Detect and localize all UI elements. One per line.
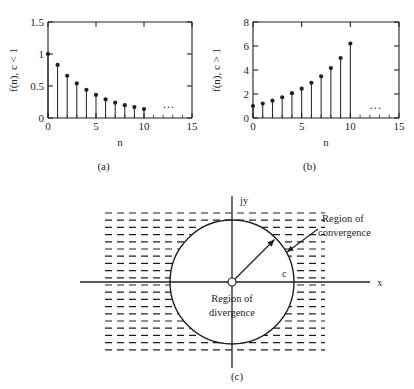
complex-plane-diagram: jy x c Region of divergence Region of co… bbox=[60, 182, 414, 372]
origin-marker bbox=[228, 278, 236, 286]
radius-label: c bbox=[282, 268, 287, 279]
real-axis-label: x bbox=[377, 277, 383, 288]
svg-text:8: 8 bbox=[244, 16, 250, 28]
convergence-label-line2: convergence bbox=[318, 227, 371, 238]
panel-caption-c: (c) bbox=[60, 370, 414, 382]
axis-ticks-a: 05101500.511.5 bbox=[30, 16, 198, 132]
stem-plot-a: 05101500.511.5 ... n f(n), c < 1 bbox=[0, 0, 207, 160]
stem-series-a bbox=[46, 52, 146, 118]
y-axis-label-a: f(n), c < 1 bbox=[7, 48, 20, 92]
svg-text:10: 10 bbox=[345, 120, 357, 132]
svg-text:15: 15 bbox=[394, 120, 406, 132]
ellipsis-b: ... bbox=[370, 98, 382, 112]
svg-text:1.5: 1.5 bbox=[30, 16, 44, 28]
axis-ticks-b: 05101502468 bbox=[244, 16, 406, 132]
svg-text:5: 5 bbox=[299, 120, 305, 132]
divergence-label-line2: divergence bbox=[209, 307, 255, 318]
panel-caption-a: (a) bbox=[0, 160, 207, 172]
panel-c: jy x c Region of divergence Region of co… bbox=[60, 182, 414, 389]
svg-text:5: 5 bbox=[93, 120, 99, 132]
panel-b: 05101502468 ... n f(n), c > 1 (b) bbox=[205, 0, 414, 180]
stem-plot-b: 05101502468 ... n f(n), c > 1 bbox=[205, 0, 414, 160]
x-axis-label-b: n bbox=[323, 136, 329, 148]
svg-text:10: 10 bbox=[139, 120, 151, 132]
ellipsis-a: ... bbox=[163, 97, 175, 111]
svg-text:2: 2 bbox=[244, 88, 250, 100]
stem-series-b bbox=[251, 42, 353, 119]
imaginary-axis-label: jy bbox=[239, 195, 249, 206]
svg-text:4: 4 bbox=[244, 64, 250, 76]
svg-text:0: 0 bbox=[45, 120, 51, 132]
divergence-label-line1: Region of bbox=[211, 293, 253, 304]
panel-caption-b: (b) bbox=[205, 160, 414, 172]
svg-text:0: 0 bbox=[244, 112, 250, 124]
svg-text:6: 6 bbox=[244, 40, 250, 52]
y-axis-label-b: f(n), c > 1 bbox=[210, 48, 223, 92]
svg-text:15: 15 bbox=[187, 120, 199, 132]
svg-text:0: 0 bbox=[39, 112, 45, 124]
svg-text:0: 0 bbox=[250, 120, 256, 132]
convergence-label-line1: Region of bbox=[322, 213, 364, 224]
figure-container: 05101500.511.5 ... n f(n), c < 1 (a) 051… bbox=[0, 0, 414, 389]
panel-a: 05101500.511.5 ... n f(n), c < 1 (a) bbox=[0, 0, 207, 180]
svg-text:1: 1 bbox=[39, 48, 45, 60]
svg-text:0.5: 0.5 bbox=[30, 80, 44, 92]
x-axis-label-a: n bbox=[117, 136, 123, 148]
